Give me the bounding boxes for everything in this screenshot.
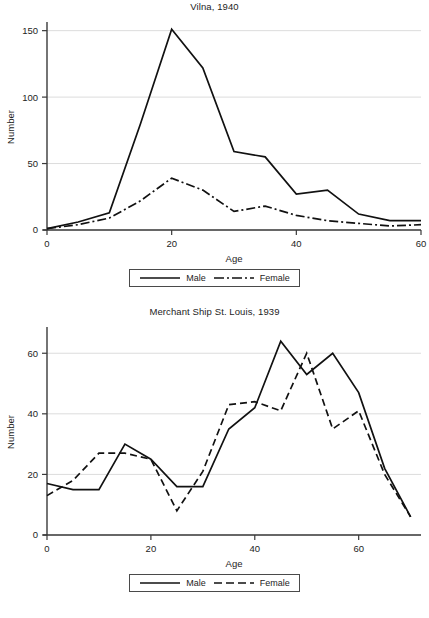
y-tick-label: 40 [27, 408, 38, 419]
x-tick-label: 20 [146, 543, 157, 554]
x-tick-label: 0 [44, 543, 49, 554]
series-line-female [47, 353, 411, 517]
plot-area-vilna: 0501001500204060AgeNumber [0, 14, 429, 269]
legend-swatch-male-solid-icon [139, 579, 181, 587]
chart-title-vilna: Vilna, 1940 [0, 0, 429, 14]
x-axis-label: Age [226, 253, 243, 264]
legend-swatch-male-solid-icon [139, 274, 181, 282]
x-tick-label: 40 [291, 238, 302, 249]
y-tick-label: 60 [27, 348, 38, 359]
plot-area-stlouis: 02040600204060AgeNumber [0, 319, 429, 574]
y-tick-label: 20 [27, 469, 38, 480]
legend-label-female: Female [260, 273, 290, 283]
legend-vilna: Male Female [0, 269, 429, 287]
legend-entry-male: Male [139, 578, 206, 588]
x-tick-label: 20 [166, 238, 177, 249]
y-tick-label: 150 [22, 25, 38, 36]
legend-label-female: Female [260, 578, 290, 588]
y-tick-label: 50 [27, 158, 38, 169]
x-axis-label: Age [226, 558, 243, 569]
chart-canvas-stlouis: 02040600204060AgeNumber [0, 319, 429, 574]
figure-stlouis: Merchant Ship St. Louis, 1939 0204060020… [0, 305, 429, 618]
legend-stlouis: Male Female [0, 574, 429, 592]
legend-label-male: Male [186, 273, 206, 283]
y-axis-label: Number [5, 110, 16, 144]
y-axis-label: Number [5, 415, 16, 449]
legend-entry-female: Female [213, 578, 290, 588]
x-tick-label: 60 [416, 238, 427, 249]
x-tick-label: 40 [249, 543, 260, 554]
chart-title-stlouis: Merchant Ship St. Louis, 1939 [0, 305, 429, 319]
chart-canvas-vilna: 0501001500204060AgeNumber [0, 14, 429, 269]
x-tick-label: 60 [353, 543, 364, 554]
legend-entry-male: Male [139, 273, 206, 283]
y-tick-label: 0 [33, 529, 38, 540]
legend-label-male: Male [186, 578, 206, 588]
figure-vilna: Vilna, 1940 0501001500204060AgeNumber Ma… [0, 0, 429, 300]
series-line-female [47, 178, 421, 229]
legend-swatch-female-dashdot-icon [213, 274, 255, 282]
series-line-male [47, 29, 421, 228]
x-tick-label: 0 [44, 238, 49, 249]
y-tick-label: 0 [33, 224, 38, 235]
y-tick-label: 100 [22, 92, 38, 103]
legend-entry-female: Female [213, 273, 290, 283]
legend-swatch-female-dashed-icon [213, 579, 255, 587]
series-line-male [47, 341, 411, 517]
